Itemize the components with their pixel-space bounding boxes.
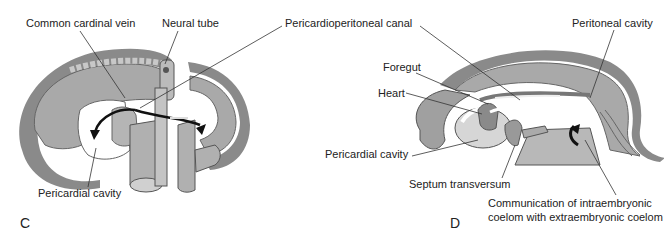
label-foregut: Foregut	[383, 61, 421, 73]
label-pericardioperitoneal-canal: Pericardioperitoneal canal	[285, 17, 412, 29]
label-peritoneal-cavity: Peritoneal cavity	[572, 17, 653, 29]
panel-d-embryo	[416, 50, 664, 165]
panel-letter-d: D	[450, 215, 460, 231]
label-septum-transversum: Septum transversum	[409, 178, 510, 190]
panel-c-embryo	[19, 49, 250, 192]
label-communication-line2: coelom with extraembryonic coelom	[488, 211, 663, 223]
label-pericardial-cavity-c: Pericardial cavity	[38, 187, 121, 199]
label-heart: Heart	[378, 87, 405, 99]
label-pericardial-cavity-d: Pericardial cavity	[325, 148, 408, 160]
label-communication-line1: Communication of intraembryonic	[488, 197, 652, 209]
label-neural-tube: Neural tube	[162, 17, 219, 29]
panel-letter-c: C	[20, 215, 30, 231]
label-common-cardinal-vein: Common cardinal vein	[26, 17, 135, 29]
